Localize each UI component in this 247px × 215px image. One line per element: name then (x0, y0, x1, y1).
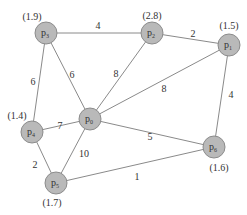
edge-p3-p0 (46, 33, 90, 119)
edge-p1-p0 (90, 45, 229, 119)
edge-weight-label: 5 (148, 131, 153, 142)
node-p4: p4(1.4) (7, 110, 43, 143)
graph-diagram: 4266884752101 p3(1.9)p2(2.8)p1(1.5)p4(1.… (0, 0, 247, 215)
node-p0: p0 (79, 108, 101, 130)
node-label-subscript: 1 (229, 45, 232, 51)
node-p2: p2(2.8) (141, 10, 163, 44)
edge-weight-label: 4 (96, 20, 101, 31)
node-value-label: (1.7) (42, 197, 61, 209)
nodes-layer: p3(1.9)p2(2.8)p1(1.5)p4(1.4)p0p5(1.7)p6(… (7, 10, 240, 209)
edges-layer (32, 33, 229, 183)
edge-weight-label: 2 (33, 159, 38, 170)
edge-weight-label: 6 (70, 69, 75, 80)
node-label-subscript: 0 (90, 119, 93, 125)
node-label-subscript: 5 (56, 183, 59, 189)
edge-weights-layer: 4266884752101 (31, 20, 234, 182)
edge-weight-label: 6 (31, 76, 36, 87)
edge-p2-p0 (90, 33, 152, 119)
node-p3: p3(1.9) (22, 11, 57, 44)
edge-weight-label: 1 (135, 171, 140, 182)
edge-weight-label: 10 (79, 148, 89, 159)
node-label-subscript: 4 (32, 132, 35, 138)
node-p5: p5(1.7) (42, 172, 67, 209)
node-label-subscript: 6 (214, 147, 217, 153)
node-p1: p1(1.5) (218, 20, 240, 56)
edge-weight-label: 8 (114, 68, 119, 79)
edge-weight-label: 7 (58, 120, 63, 131)
node-value-label: (1.4) (7, 110, 26, 122)
node-value-label: (1.5) (219, 20, 238, 32)
node-value-label: (1.9) (22, 11, 41, 23)
node-p6: p6(1.6) (203, 136, 229, 174)
node-label-subscript: 3 (46, 33, 49, 39)
edge-weight-label: 8 (162, 83, 167, 94)
node-value-label: (1.6) (209, 162, 228, 174)
edge-weight-label: 2 (191, 28, 196, 39)
edge-p1-p6 (214, 45, 229, 147)
node-value-label: (2.8) (142, 10, 161, 22)
node-label-subscript: 2 (152, 33, 155, 39)
edge-weight-label: 4 (229, 89, 234, 100)
